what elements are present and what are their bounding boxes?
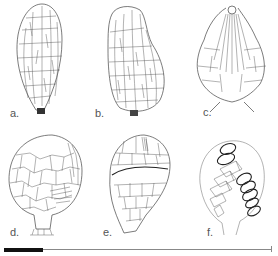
scale-bar-line xyxy=(43,249,272,250)
panel-c: c. xyxy=(180,0,278,120)
scale-bar-filled-segment xyxy=(4,248,43,252)
capsule-a-drawing xyxy=(0,0,90,120)
panel-label-c: c. xyxy=(203,107,212,118)
panel-f: f. xyxy=(180,125,278,243)
scale-bar-end-tick xyxy=(271,246,272,252)
panel-label-b: b. xyxy=(95,108,104,119)
panel-b: b. xyxy=(90,0,180,120)
panel-e: e. xyxy=(90,125,180,243)
capsule-f-drawing xyxy=(180,125,278,243)
panel-label-e: e. xyxy=(103,227,112,238)
scale-bar xyxy=(4,247,272,253)
panel-label-f: f. xyxy=(207,227,213,238)
panel-a: a. xyxy=(0,0,90,120)
panel-label-d: d. xyxy=(10,227,19,238)
capsule-b-drawing xyxy=(90,0,180,120)
capsule-c-drawing xyxy=(180,0,278,120)
panel-label-a: a. xyxy=(10,108,19,119)
panel-d: d. xyxy=(0,125,90,243)
